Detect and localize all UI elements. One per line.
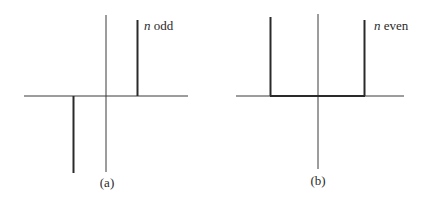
figure: n odd (a) n even (b) [0,0,424,202]
panel-a-caption: (a) [100,175,114,190]
panel-b: n even (b) [236,14,409,188]
panel-b-caption: (b) [310,173,325,188]
panel-a-parity-label: n odd [144,18,174,33]
panel-a: n odd (a) [24,15,188,190]
panel-b-parity-label: n even [374,18,409,33]
